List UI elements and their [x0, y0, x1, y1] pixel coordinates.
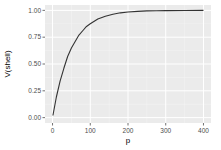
y-tick-label: 0.25: [28, 87, 41, 94]
x-tick-label: 200: [123, 127, 134, 134]
y-tick-label: 0.00: [28, 114, 41, 121]
x-tick-label: 400: [198, 127, 209, 134]
y-axis: 0.000.250.500.751.00: [28, 7, 45, 121]
y-tick-label: 1.00: [28, 7, 41, 14]
x-axis-title: p: [126, 136, 131, 145]
chart: 0100200300400 0.000.250.500.751.00 p V(s…: [0, 0, 221, 150]
x-tick-label: 0: [51, 127, 55, 134]
x-tick-label: 300: [160, 127, 171, 134]
x-tick-label: 100: [85, 127, 96, 134]
y-tick-label: 0.75: [28, 33, 41, 40]
y-tick-label: 0.50: [28, 60, 41, 67]
x-axis: 0100200300400: [51, 123, 210, 134]
y-axis-title: V(shell): [3, 50, 12, 77]
